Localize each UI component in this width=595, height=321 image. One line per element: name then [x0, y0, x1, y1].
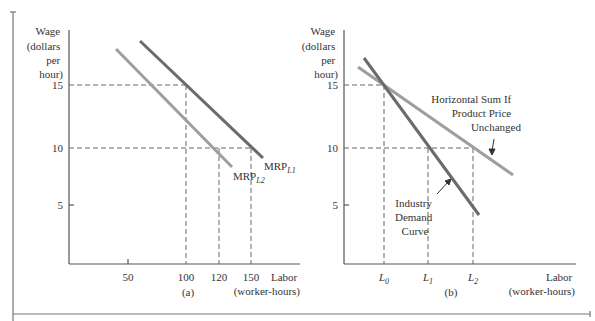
panel-b: Wage (dollars per hour) 15 10 5 L0 L1 L2…: [302, 25, 576, 299]
panel-b-xtick-l0: L0: [378, 271, 389, 286]
arrow-icon: [437, 139, 495, 194]
panel-a-xtick-100: 100: [178, 271, 195, 283]
panel-a-y-label: Wage (dollars per hour): [27, 25, 64, 81]
panel-b-ytick-10: 10: [327, 142, 339, 154]
panel-a-ytick-15: 15: [52, 79, 64, 91]
figure-canvas: Wage (dollars per hour) 15 10 5 50 100 1…: [0, 0, 595, 321]
panel-b-ytick-15: 15: [327, 79, 339, 91]
panel-a-xtick-120: 120: [211, 271, 228, 283]
mrp-l2-label: MRPL2: [233, 170, 265, 185]
panel-a-xtick-50: 50: [123, 271, 135, 283]
industry-demand-curve: [364, 58, 479, 215]
mrp-l1-label: MRPL1: [264, 160, 296, 175]
panel-b-y-label: Wage (dollars per hour): [302, 25, 339, 81]
panel-a-ytick-5: 5: [58, 199, 64, 211]
panel-a-guides: [69, 85, 251, 264]
panel-a-ytick-10: 10: [52, 142, 64, 154]
industry-demand-label: Industry Demand Curve: [395, 197, 435, 237]
panel-b-caption: (b): [445, 286, 458, 299]
panel-b-x-label: Labor (worker-hours): [509, 271, 576, 298]
panel-a-axes: [69, 30, 300, 264]
panel-b-xtick-l2: L2: [467, 271, 478, 286]
panel-b-axes: [344, 30, 576, 264]
panel-a-xtick-150: 150: [243, 271, 260, 283]
panel-a: Wage (dollars per hour) 15 10 5 50 100 1…: [27, 25, 301, 299]
panel-a-caption: (a): [182, 286, 195, 299]
panel-b-ytick-5: 5: [333, 199, 339, 211]
panel-b-xtick-l1: L1: [422, 271, 433, 286]
mrp-l2-curve: [116, 49, 232, 167]
mrp-l1-curve: [140, 41, 263, 158]
